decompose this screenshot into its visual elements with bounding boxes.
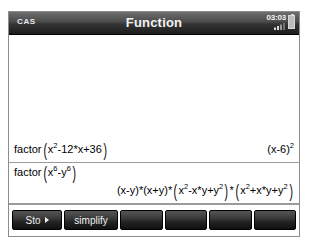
softkey-3[interactable] [120, 210, 163, 230]
multiply-operator: * [168, 184, 172, 196]
result-factor: (x-y) [117, 184, 139, 196]
open-paren: ( [174, 185, 177, 197]
result-factor: (x+y) [143, 184, 168, 196]
battery-icon [288, 15, 295, 29]
softkey-4[interactable] [165, 210, 208, 230]
softkey-6[interactable] [254, 210, 297, 230]
signal-bars-icon [274, 23, 286, 30]
history-entry[interactable]: factor(x2-12*x+36) (x-6)2 [9, 35, 299, 163]
expression-term: -12*x+36 [58, 143, 102, 155]
softkey-label: Sto [25, 215, 40, 226]
softkey-sto[interactable]: Sto [12, 210, 62, 230]
clock-text: 03:03 [267, 14, 286, 22]
history-output-expression[interactable]: (x-y)*(x+y)*(x2-x*y+y2)*(x2+x*y+y2) [117, 184, 294, 196]
result-term: +x*y+y [250, 184, 284, 196]
history-input-expression[interactable]: factor(x2-12*x+36) [14, 143, 108, 155]
softkey-simplify[interactable]: simplify [64, 210, 118, 230]
softkey-5[interactable] [209, 210, 252, 230]
calculator-screen: CAS Function 03:03 factor(x2-12*x+36) [8, 11, 300, 237]
result-base: (x-6) [267, 143, 290, 155]
result-term: -x*y+y [188, 184, 219, 196]
history-input-expression[interactable]: factor(x6-y6) [14, 166, 77, 178]
clock-and-signal: 03:03 [267, 14, 286, 30]
history-entry[interactable]: factor(x6-y6) (x-y)*(x+y)*(x2-x*y+y2)*(x… [9, 163, 299, 204]
close-paren: ) [225, 185, 228, 197]
softkey-label: simplify [74, 215, 107, 226]
open-paren: ( [43, 167, 46, 179]
close-paren: ) [103, 144, 106, 156]
title-bar: CAS Function 03:03 [9, 12, 299, 35]
page-title: Function [9, 15, 299, 30]
function-name: factor [14, 166, 42, 178]
close-paren: ) [72, 167, 75, 179]
open-paren: ( [43, 144, 46, 156]
open-paren: ( [235, 185, 238, 197]
function-name: factor [14, 143, 42, 155]
expression-term: -y [58, 166, 67, 178]
store-arrow-icon [45, 217, 49, 223]
softkey-menu-bar: Sto simplify [9, 204, 299, 236]
history-output-expression[interactable]: (x-6)2 [267, 143, 294, 155]
cas-history-area[interactable]: factor(x2-12*x+36) (x-6)2 factor(x6-y6) … [9, 35, 299, 204]
status-cluster: 03:03 [267, 14, 295, 30]
close-paren: ) [289, 185, 292, 197]
softkey-row: Sto simplify [9, 210, 299, 230]
multiply-operator: * [230, 184, 234, 196]
result-term: x [240, 184, 246, 196]
